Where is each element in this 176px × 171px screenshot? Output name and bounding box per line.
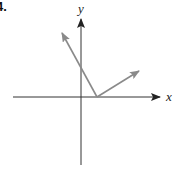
y-axis-label: y <box>78 1 84 17</box>
coordinate-diagram <box>0 0 176 171</box>
vector-left <box>62 33 97 97</box>
vector-right <box>97 71 139 97</box>
x-axis-label: x <box>166 89 172 105</box>
